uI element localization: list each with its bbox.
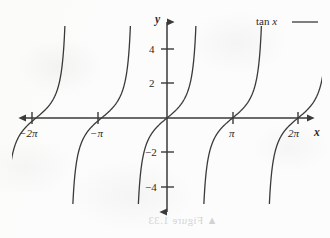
y-tick-label-4: 4 — [149, 44, 155, 55]
y-tick-label-neg-4: −4 — [145, 182, 157, 193]
y-tick-label-neg-2: −2 — [145, 147, 157, 158]
tan-branch-1 — [72, 0, 131, 231]
legend-function-name: tan — [256, 15, 269, 27]
legend-variable-name: x — [272, 15, 277, 27]
tangent-function-figure: −2π −π π 2π 4 2 −2 −4 y x tan x ▲ Figure… — [0, 0, 330, 238]
x-tick-label-neg-2pi: −2π — [19, 128, 37, 139]
y-tick-label-2: 2 — [149, 78, 155, 89]
legend-entry-tan-x: tan x — [256, 16, 277, 27]
x-tick-label-pi: π — [229, 128, 235, 139]
y-axis-label: y — [155, 14, 160, 26]
plot-canvas — [0, 0, 330, 238]
x-tick-label-2pi: 2π — [288, 128, 299, 139]
x-axis-label: x — [314, 127, 320, 139]
tan-branch-0 — [6, 0, 66, 234]
x-tick-label-neg-pi: −π — [90, 128, 103, 139]
